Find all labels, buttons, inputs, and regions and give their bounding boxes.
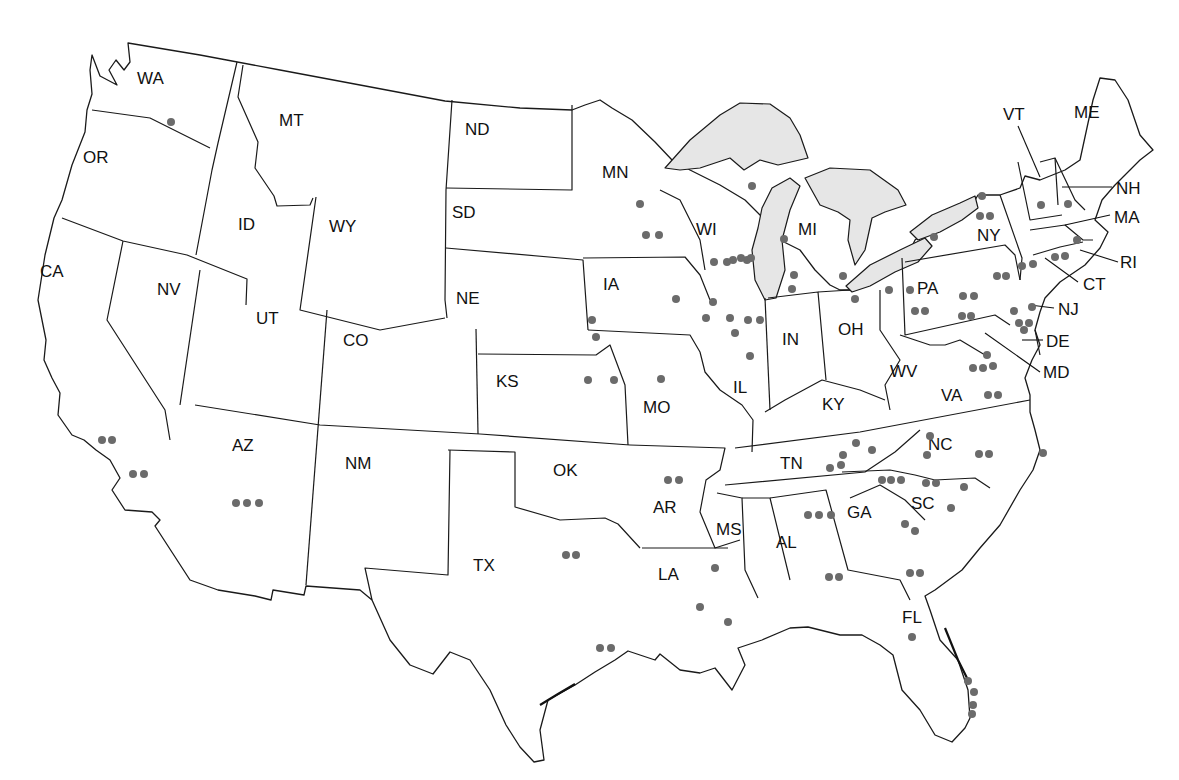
location-dot (911, 527, 919, 535)
lake-huron (805, 168, 906, 265)
location-dot (839, 272, 847, 280)
location-dot (967, 312, 975, 320)
location-dot (916, 569, 924, 577)
location-dot (592, 333, 600, 341)
location-dot (897, 476, 905, 484)
location-dot (756, 316, 764, 324)
state-label-ia: IA (603, 275, 620, 294)
location-dot (1028, 303, 1036, 311)
state-label-de: DE (1046, 332, 1070, 351)
us-outline (38, 43, 1153, 762)
location-dot (98, 436, 106, 444)
location-dot (723, 258, 731, 266)
location-dot (232, 499, 240, 507)
state-label-co: CO (343, 331, 369, 350)
state-label-sd: SD (452, 203, 476, 222)
location-dot (994, 391, 1002, 399)
location-dot (711, 564, 719, 572)
location-dot (851, 295, 859, 303)
location-dot (724, 618, 732, 626)
location-dot (790, 271, 798, 279)
location-dot (976, 212, 984, 220)
location-dot (788, 285, 796, 293)
location-dot (887, 476, 895, 484)
location-dot (804, 511, 812, 519)
state-label-nm: NM (345, 454, 371, 473)
location-dot (1037, 201, 1045, 209)
location-dot (108, 436, 116, 444)
location-dot (852, 439, 860, 447)
state-label-oh: OH (838, 320, 864, 339)
location-dot (969, 364, 977, 372)
location-dot (255, 499, 263, 507)
location-dot (983, 351, 991, 359)
location-dot (969, 701, 977, 709)
location-dot (911, 307, 919, 315)
location-dot (978, 192, 986, 200)
state-label-sc: SC (911, 494, 935, 513)
location-dot (906, 569, 914, 577)
location-dot (655, 231, 663, 239)
state-label-nd: ND (465, 120, 490, 139)
us-states-map: WAORCANVIDMTWYUTCOAZNMNDSDNEKSOKTXMNIAMO… (0, 0, 1179, 780)
location-dot (696, 603, 704, 611)
state-label-wi: WI (696, 220, 717, 239)
location-dot (986, 212, 994, 220)
location-dot (664, 476, 672, 484)
state-label-la: LA (658, 565, 679, 584)
state-label-az: AZ (232, 436, 254, 455)
state-label-il: IL (733, 378, 747, 397)
location-dot (989, 362, 997, 370)
location-dot (985, 450, 993, 458)
state-label-ms: MS (716, 520, 742, 539)
location-dot (1073, 236, 1081, 244)
location-dot (908, 633, 916, 641)
state-label-ks: KS (496, 372, 519, 391)
state-label-ar: AR (653, 498, 677, 517)
location-dot (243, 499, 251, 507)
location-dot (960, 483, 968, 491)
location-dot (993, 272, 1001, 280)
state-label-ma: MA (1114, 208, 1140, 227)
location-dot (709, 298, 717, 306)
location-dot (596, 644, 604, 652)
state-label-ut: UT (256, 309, 279, 328)
state-label-ri: RI (1120, 253, 1137, 272)
location-dot (642, 231, 650, 239)
location-dot (672, 295, 680, 303)
state-label-mi: MI (798, 220, 817, 239)
location-dot (140, 470, 148, 478)
location-dot (930, 233, 938, 241)
location-dot (1020, 326, 1028, 334)
location-dot (959, 292, 967, 300)
location-dot (1029, 260, 1037, 268)
state-label-al: AL (776, 533, 797, 552)
state-label-or: OR (83, 148, 109, 167)
location-dot (607, 644, 615, 652)
location-dot (968, 710, 976, 718)
location-dot (979, 364, 987, 372)
location-dot (744, 316, 752, 324)
location-dot (837, 461, 845, 469)
location-dot (921, 307, 929, 315)
location-dot (947, 504, 955, 512)
state-label-ct: CT (1083, 275, 1106, 294)
location-dot (562, 551, 570, 559)
location-dot (710, 258, 718, 266)
location-dot (1018, 262, 1026, 270)
location-dot (657, 375, 665, 383)
location-dot (780, 235, 788, 243)
location-dot (878, 476, 886, 484)
state-label-ne: NE (456, 289, 480, 308)
state-label-mo: MO (643, 398, 670, 417)
state-label-ny: NY (977, 226, 1001, 245)
location-dot (584, 376, 592, 384)
location-dot (825, 573, 833, 581)
state-label-nh: NH (1116, 179, 1141, 198)
location-dot (932, 479, 940, 487)
location-dot (958, 312, 966, 320)
lake-superior (665, 103, 808, 170)
location-dot (167, 118, 175, 126)
location-dot (885, 286, 893, 294)
location-dot (922, 479, 930, 487)
